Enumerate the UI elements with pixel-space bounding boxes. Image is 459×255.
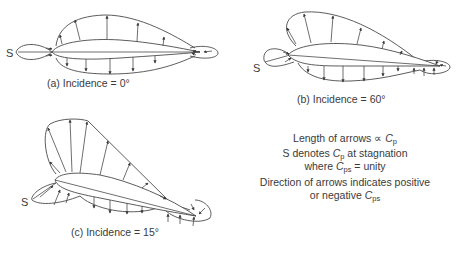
legend-line-negative: or negative Cps	[240, 189, 450, 205]
diagram-b-leading-lobe	[264, 49, 294, 67]
diagram-b: S (b) Incidence = 60°	[253, 12, 450, 105]
cps-subscript: ps	[372, 194, 380, 203]
pressure-distribution-figure: S (a) Incidence = 0°	[0, 0, 459, 255]
legend-line-direction: Direction of arrows indicates positive	[240, 176, 450, 189]
cp-symbol: C	[385, 132, 393, 144]
diagram-c-caption: (c) Incidence = 15°	[71, 226, 159, 238]
legend-line-arrow-length: Length of arrows ∝ Cp	[240, 132, 450, 148]
legend-text: Length of arrows ∝	[293, 132, 385, 144]
diagram-b-stagnation-label: S	[253, 62, 260, 74]
legend-line-unity: where Cps = unity	[240, 160, 450, 176]
diagram-a-caption: (a) Incidence = 0°	[47, 77, 130, 89]
diagram-c-aerofoil	[55, 173, 196, 216]
legend-text: at stagnation	[344, 147, 407, 159]
legend-text: or negative	[310, 189, 365, 201]
diagram-c-stagnation-label: S	[21, 196, 28, 208]
diagram-c-stagnation-line	[33, 183, 56, 199]
diagram-c: S (c) Incidence = 15°	[21, 119, 211, 238]
diagram-b-lower-arrows	[308, 66, 398, 82]
diagram-a-stagnation-label: S	[6, 47, 13, 59]
diagram-a: S (a) Incidence = 0°	[6, 15, 218, 89]
diagram-b-caption: (b) Incidence = 60°	[297, 93, 386, 105]
diagram-b-aerofoil	[288, 43, 440, 66]
cps-symbol: C	[336, 160, 344, 172]
legend-text: Direction of arrows indicates positive	[260, 176, 430, 188]
legend-text: = unity	[351, 160, 385, 172]
legend-text: where	[304, 160, 336, 172]
cp-subscript: p	[393, 137, 397, 146]
legend-text: S denotes	[282, 147, 332, 159]
diagram-a-aerofoil	[52, 40, 200, 60]
